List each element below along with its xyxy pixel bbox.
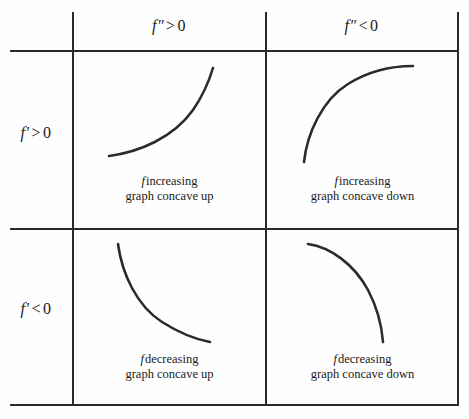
curve-path <box>118 244 210 342</box>
column-header-double-prime-symbol: ″ <box>157 17 164 34</box>
column-header-value: 0 <box>178 17 187 34</box>
caption-line-concavity: graph concave down <box>266 189 459 204</box>
caption-line-monotonicity: fincreasing <box>73 174 266 189</box>
column-header-fpp-negative: f″<0 <box>265 17 458 35</box>
caption-line-monotonicity: fdecreasing <box>266 352 459 367</box>
curve-graphic-decreasing-concave-down <box>266 230 459 350</box>
concavity-reference-table: f″>0 f″<0 f′>0 f′<0 fincreasing graph co… <box>0 0 469 419</box>
cell-increasing-concave-up: fincreasing graph concave up <box>73 52 266 228</box>
row-header-fp-positive: f′>0 <box>0 124 72 142</box>
caption-line-monotonicity: fdecreasing <box>73 352 266 367</box>
column-header-value: 0 <box>370 17 379 34</box>
row-header-value: 0 <box>43 124 52 141</box>
column-header-double-prime-symbol: ″ <box>349 17 356 34</box>
cell-decreasing-concave-down: fdecreasing graph concave down <box>266 230 459 404</box>
curve-path <box>109 68 213 156</box>
caption-line-concavity: graph concave down <box>266 367 459 382</box>
cell-increasing-concave-down: fincreasing graph concave down <box>266 52 459 228</box>
curve-graphic-increasing-concave-down <box>266 52 459 172</box>
curve-graphic-increasing-concave-up <box>73 52 266 172</box>
caption-monotonicity-text: decreasing <box>338 352 391 366</box>
curve-path <box>308 244 383 342</box>
table-bottom-border-line <box>10 404 459 406</box>
curve-graphic-decreasing-concave-up <box>73 230 266 350</box>
caption-decreasing-concave-down: fdecreasing graph concave down <box>266 352 459 382</box>
caption-decreasing-concave-up: fdecreasing graph concave up <box>73 352 266 382</box>
caption-line-concavity: graph concave up <box>73 189 266 204</box>
caption-increasing-concave-down: fincreasing graph concave down <box>266 174 459 204</box>
row-header-fp-negative: f′<0 <box>0 300 72 318</box>
caption-line-monotonicity: fincreasing <box>266 174 459 189</box>
caption-monotonicity-text: increasing <box>146 174 197 188</box>
caption-monotonicity-text: decreasing <box>145 352 198 366</box>
row-header-operator: < <box>29 300 43 317</box>
cell-decreasing-concave-up: fdecreasing graph concave up <box>73 230 266 404</box>
column-header-operator: > <box>164 17 178 34</box>
curve-path <box>304 66 413 162</box>
caption-monotonicity-text: increasing <box>339 174 390 188</box>
caption-line-concavity: graph concave up <box>73 367 266 382</box>
row-header-value: 0 <box>43 300 52 317</box>
caption-increasing-concave-up: fincreasing graph concave up <box>73 174 266 204</box>
column-header-operator: < <box>357 17 371 34</box>
column-header-fpp-positive: f″>0 <box>72 17 266 35</box>
row-header-operator: > <box>29 124 43 141</box>
